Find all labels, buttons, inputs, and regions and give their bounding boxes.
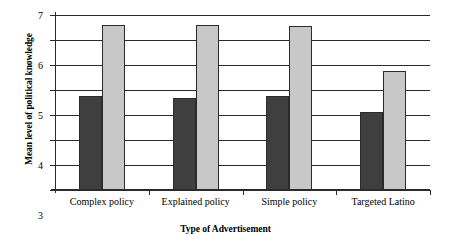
bars-layer [55, 15, 430, 190]
y-tick-mark: 0 [50, 190, 55, 191]
x-axis-title: Type of Advertisement [0, 224, 451, 234]
category-label: Targeted Latino [351, 196, 414, 207]
y-axis-title: Mean level of political knowledge [24, 14, 34, 184]
y-tick-label: 6 [38, 61, 43, 71]
y-tick-label: 3 [38, 211, 43, 221]
x-axis-separator [243, 190, 244, 195]
x-axis-separator [149, 190, 150, 195]
x-axis-separator [430, 190, 431, 195]
plot-area: 01234567 [55, 15, 430, 190]
x-axis-separator [336, 190, 337, 195]
category-label: Simple policy [261, 196, 317, 207]
bar [360, 112, 383, 190]
bar [289, 26, 312, 190]
bar [173, 98, 196, 191]
y-tick-label: 5 [38, 111, 43, 121]
y-tick-label: 7 [38, 11, 43, 21]
bar [79, 96, 102, 190]
category-label: Complex policy [70, 196, 134, 207]
bar-chart: Mean level of political knowledge 012345… [0, 0, 451, 244]
category-label: Explained policy [162, 196, 230, 207]
y-tick-label: 4 [38, 161, 43, 171]
bar [383, 71, 406, 191]
bar [196, 25, 219, 190]
bar [266, 96, 289, 190]
bar [102, 25, 125, 190]
